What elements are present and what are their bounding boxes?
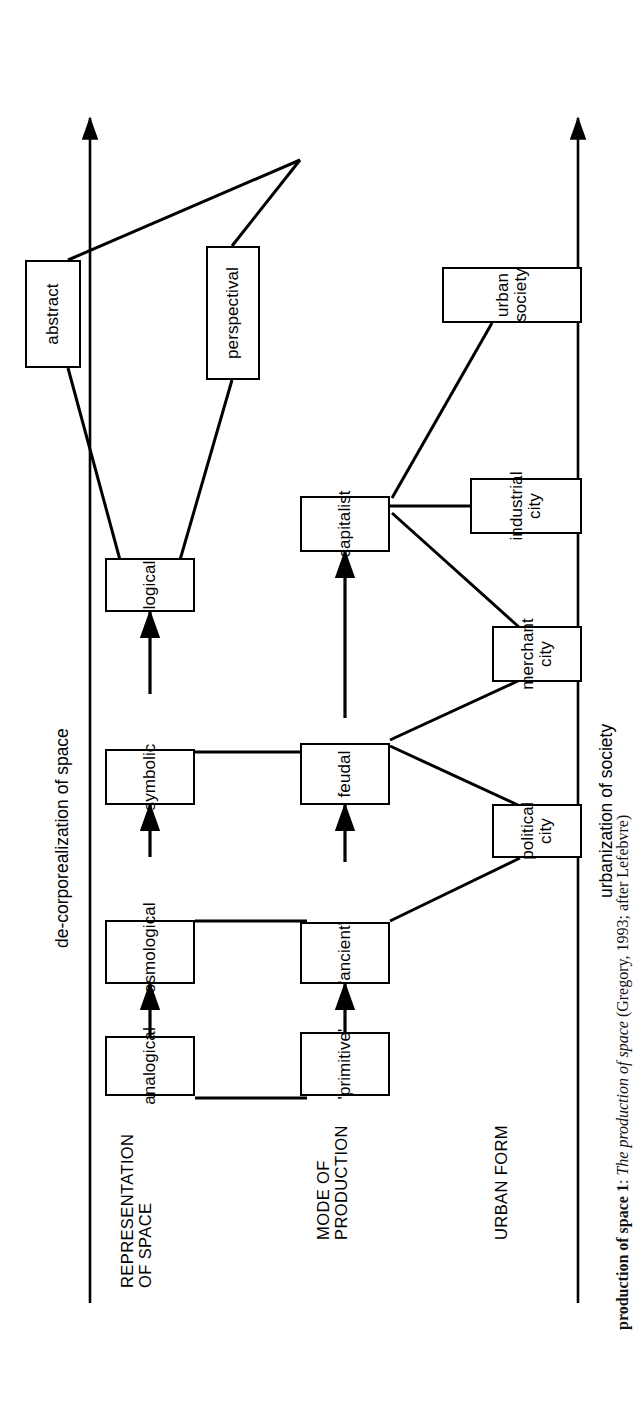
node-cosmological-label: cosmological — [141, 898, 159, 1005]
node-primitive-label: 'primitive' — [336, 1025, 354, 1104]
node-merchant-city-label: merchant city — [519, 614, 556, 694]
node-merchant-city[interactable]: merchant city — [492, 626, 582, 682]
node-urban-society-label: urban society — [494, 264, 531, 326]
node-cosmological[interactable]: cosmological — [105, 920, 195, 984]
edge-capitalist-urban-society — [392, 323, 492, 498]
node-political-city[interactable]: political city — [492, 804, 582, 858]
node-feudal-label: feudal — [336, 747, 354, 802]
edge-ancient-political-city — [390, 858, 520, 921]
node-ancient-label: 'ancient' — [336, 918, 354, 988]
row-label-representation-of-space-text: REPRESENTATION OF SPACE — [118, 1134, 154, 1288]
row-label-urban-form-text: URBAN FORM — [492, 1125, 510, 1240]
node-industrial-city[interactable]: industrial city — [470, 478, 582, 534]
edge-logical-perspectival — [180, 380, 232, 560]
node-ancient[interactable]: 'ancient' — [300, 922, 390, 984]
node-symbolic-label: symbolic — [141, 740, 159, 815]
edge-feudal-merchant-city — [390, 680, 520, 740]
node-analogical[interactable]: analogical — [105, 1036, 195, 1096]
row-label-mode-of-production: MODE OF PRODUCTION — [314, 1125, 351, 1240]
node-capitalist-label: capitalist — [336, 486, 354, 561]
node-logical-label: logical — [141, 557, 159, 614]
row-label-representation-of-space: REPRESENTATION OF SPACE — [118, 1134, 155, 1288]
caption-rest: (Gregory, 1993; after Lefebvre) — [614, 815, 631, 1021]
caption-separator: : — [614, 1176, 631, 1184]
row-label-mode-of-production-text: MODE OF PRODUCTION — [314, 1125, 350, 1240]
row-label-urban-form: URBAN FORM — [492, 1125, 510, 1240]
node-feudal[interactable]: feudal — [300, 743, 390, 805]
node-analogical-label: analogical — [141, 1023, 159, 1109]
figure-caption: production of space 1: The production of… — [592, 0, 632, 1418]
node-industrial-city-label: industrial city — [508, 467, 545, 544]
left-axis-label: de-corporealization of space — [52, 728, 73, 948]
node-symbolic[interactable]: symbolic — [105, 749, 195, 805]
caption-italic: The production of space — [614, 1021, 631, 1176]
node-abstract[interactable]: abstract — [25, 260, 81, 368]
caption-bold: production of space 1 — [614, 1184, 631, 1330]
figure-rotation-wrapper: analogical cosmological symbolic logical… — [0, 0, 638, 1418]
node-primitive[interactable]: 'primitive' — [300, 1032, 390, 1096]
edge-logical-abstract — [68, 368, 120, 560]
node-urban-society[interactable]: urban society — [442, 267, 582, 323]
node-logical[interactable]: logical — [105, 558, 195, 612]
figure-canvas: analogical cosmological symbolic logical… — [0, 0, 638, 1418]
node-capitalist[interactable]: capitalist — [300, 496, 390, 552]
node-perspectival-label: perspectival — [224, 263, 242, 363]
node-political-city-label: political city — [519, 798, 556, 864]
left-axis-label-text: de-corporealization of space — [52, 728, 72, 948]
edge-political-city-feudal — [390, 746, 520, 806]
node-perspectival[interactable]: perspectival — [206, 246, 260, 380]
edge-abstract-capitalist — [68, 160, 300, 260]
edge-perspectival-capitalist — [232, 160, 300, 246]
node-abstract-label: abstract — [44, 279, 62, 348]
